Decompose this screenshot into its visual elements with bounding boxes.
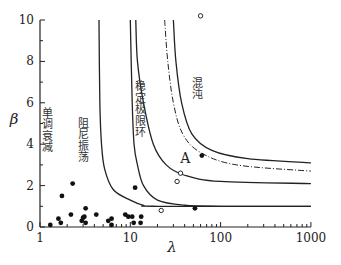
y-tick-label: 8 — [26, 54, 34, 68]
boundary-curve-damped-to-limit-cycle — [130, 20, 311, 206]
phase-diagram-chart: 02468101101001000 单调衰减阻尼振荡稳定极限环混沌A λ β — [0, 0, 341, 265]
filled-data-point — [193, 206, 198, 211]
region-label: 稳定极限环 — [135, 79, 146, 139]
filled-data-point — [94, 212, 99, 217]
svg-text:环: 环 — [135, 126, 146, 139]
filled-data-point — [83, 220, 88, 225]
y-tick-label: 2 — [26, 179, 34, 193]
filled-data-point — [109, 216, 114, 221]
y-axis-label: β — [9, 110, 19, 128]
filled-data-point — [199, 153, 204, 158]
filled-data-point — [56, 216, 61, 221]
filled-data-point — [82, 214, 87, 219]
y-tick-label: 0 — [26, 220, 34, 234]
x-tick-label: 10 — [123, 231, 138, 245]
filled-data-point — [133, 185, 138, 190]
data-points — [48, 14, 204, 228]
y-tick-label: 10 — [19, 13, 34, 27]
filled-data-point — [138, 220, 143, 225]
filled-data-point — [48, 223, 53, 228]
boundary-curve-chaos-threshold-dashed — [165, 20, 311, 171]
boundary-curves — [99, 20, 311, 206]
filled-data-point — [83, 206, 88, 211]
open-data-point — [175, 179, 179, 183]
filled-data-point — [58, 220, 63, 225]
svg-text:荡: 荡 — [78, 151, 89, 164]
region-label: 混沌 — [192, 77, 203, 102]
svg-text:沌: 沌 — [192, 88, 203, 101]
x-tick-label: 100 — [209, 231, 232, 245]
filled-data-point — [109, 223, 114, 228]
x-tick-label: 1 — [36, 231, 44, 245]
filled-data-point — [130, 214, 135, 219]
region-label: 单调衰减 — [42, 107, 53, 155]
filled-data-point — [139, 214, 144, 219]
filled-data-point — [131, 220, 136, 225]
boundary-curve-limit-cycle-boundary — [136, 20, 311, 184]
svg-text:减: 减 — [42, 141, 53, 154]
x-tick-label: 1000 — [296, 231, 327, 245]
region-label: 阻尼振荡 — [78, 117, 89, 165]
y-tick-label: 4 — [26, 137, 34, 151]
axes: 02468101101001000 — [19, 13, 326, 245]
y-tick-label: 6 — [26, 96, 34, 110]
x-axis-label: λ — [166, 238, 177, 256]
open-data-point — [178, 171, 182, 175]
filled-data-point — [60, 194, 65, 199]
open-data-point — [159, 208, 163, 212]
filled-data-point — [69, 212, 74, 217]
annotation-A: A — [179, 150, 191, 166]
open-data-point — [198, 14, 202, 18]
region-labels: 单调衰减阻尼振荡稳定极限环混沌A — [42, 77, 203, 166]
filled-data-point — [70, 181, 75, 186]
